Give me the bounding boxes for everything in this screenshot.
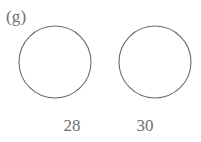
part-label: (g) [6, 8, 26, 25]
left-set-count-label: 28 [52, 117, 92, 134]
venn-diagram-graphic [0, 0, 201, 142]
right-set-count-label: 30 [125, 117, 165, 134]
venn-diagram-figure: (g) 28 30 [0, 0, 201, 142]
